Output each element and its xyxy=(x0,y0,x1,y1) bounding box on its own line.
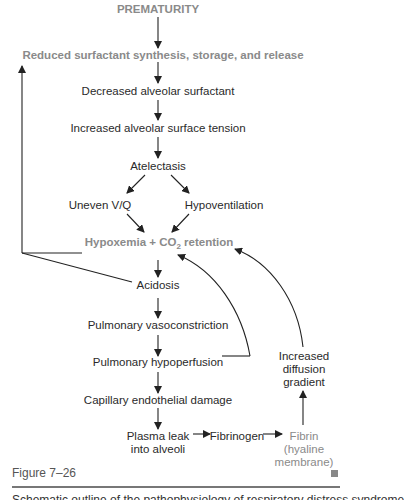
caption-end-marker-icon xyxy=(331,470,338,477)
diffusion-line1: Increased xyxy=(279,350,330,363)
feedback-acidosis-line xyxy=(22,253,132,282)
node-prematurity: PREMATURITY xyxy=(117,3,199,16)
node-diffusion-gradient: Increased diffusion gradient xyxy=(279,350,330,389)
fibrin-line3: membrane) xyxy=(275,456,334,469)
node-plasma-leak: Plasma leak into alveoli xyxy=(127,430,190,456)
plasma-leak-line1: Plasma leak xyxy=(127,430,190,443)
node-fibrinogen: Fibrinogen xyxy=(210,430,264,443)
node-hypoxemia: Hypoxemia + CO2 retention xyxy=(85,236,234,253)
node-decreased-surfactant: Decreased alveolar surfactant xyxy=(82,85,235,98)
caption-text-truncated: Schematic outline of the pathophysiology… xyxy=(12,494,404,500)
node-fibrin: Fibrin (hyaline membrane) xyxy=(275,430,334,469)
feedback-hypoperfusion-curve xyxy=(178,255,250,356)
diffusion-line2: diffusion xyxy=(279,363,330,376)
caption-divider xyxy=(12,486,340,488)
arrow-atelectasis-to-vq xyxy=(127,175,145,193)
figure-caption-label: Figure 7–26 xyxy=(12,466,76,480)
diffusion-line3: gradient xyxy=(279,376,330,389)
fibrin-line1: Fibrin xyxy=(275,430,334,443)
node-uneven-vq: Uneven V/Q xyxy=(69,199,132,212)
feedback-diffusion-curve xyxy=(235,249,303,347)
arrow-vq-to-hypoxemia xyxy=(127,214,144,232)
node-vasoconstriction: Pulmonary vasoconstriction xyxy=(88,319,229,332)
hypoxemia-suffix: retention xyxy=(181,236,233,248)
hypoxemia-prefix: Hypoxemia + CO xyxy=(85,236,177,248)
node-atelectasis: Atelectasis xyxy=(130,160,186,173)
node-reduced-surfactant: Reduced surfactant synthesis, storage, a… xyxy=(22,49,303,62)
node-hypoventilation: Hypoventilation xyxy=(185,199,264,212)
fibrin-line2: (hyaline xyxy=(275,443,334,456)
plasma-leak-line2: into alveoli xyxy=(127,443,190,456)
node-hypoperfusion: Pulmonary hypoperfusion xyxy=(93,356,223,369)
node-surface-tension: Increased alveolar surface tension xyxy=(70,122,245,135)
node-capillary-damage: Capillary endothelial damage xyxy=(84,394,232,407)
arrow-atelectasis-to-hypoventilation xyxy=(171,175,189,193)
arrow-hypoventilation-to-hypoxemia xyxy=(172,214,189,232)
node-acidosis: Acidosis xyxy=(137,279,180,292)
